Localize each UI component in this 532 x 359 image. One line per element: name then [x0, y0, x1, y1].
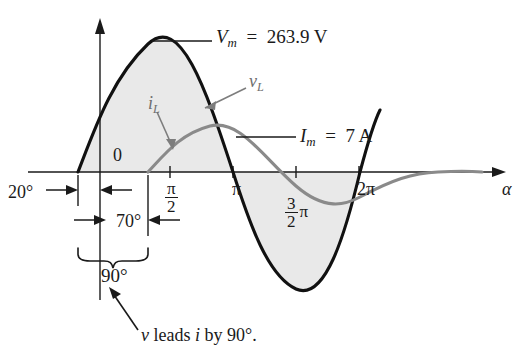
tick-label-3pi-over-2: 3 2 π — [285, 195, 308, 231]
dim-20deg — [46, 185, 78, 195]
3pi2-pi-symbol: π — [300, 202, 309, 221]
im-callout-label: Im = 7 A — [300, 126, 372, 149]
dimension-label-70deg: 70° — [116, 212, 141, 230]
tick-label-pi: π — [232, 180, 241, 198]
dimension-label-20deg: 20° — [8, 183, 33, 201]
im-value: 7 A — [345, 125, 372, 146]
vm-equals: = — [246, 26, 257, 47]
pi2-numerator: π — [165, 180, 178, 198]
tick-label-pi-over-2: π 2 — [165, 180, 178, 216]
dimension-label-90deg: 90° — [101, 266, 128, 285]
vm-value: 263.9 V — [267, 26, 328, 47]
x-axis-label: α — [502, 180, 511, 198]
im-subscript: m — [306, 134, 315, 149]
voltage-curve-label: vL — [249, 72, 264, 93]
vl-pointer-arrow — [205, 88, 246, 110]
vm-symbol: V — [216, 26, 228, 47]
current-curve-label: iL — [148, 94, 160, 115]
vl-subscript: L — [257, 80, 264, 94]
il-subscript: L — [153, 102, 160, 116]
3pi2-numerator: 3 — [285, 195, 298, 213]
vl-symbol: v — [249, 71, 257, 91]
3pi2-denominator: 2 — [285, 213, 298, 230]
caption-pointer-arrow — [109, 287, 138, 330]
origin-label: 0 — [113, 146, 122, 164]
vm-callout-label: Vm = 263.9 V — [216, 27, 328, 50]
figure-caption: v leads i by 90°. — [141, 326, 257, 344]
dim-20deg-inner-arrow — [100, 185, 132, 195]
vm-subscript: m — [228, 35, 237, 50]
plot-canvas — [0, 0, 532, 359]
waveform-figure: Vm = 263.9 V Im = 7 A vL iL 0 α π 2 π 3 … — [0, 0, 532, 359]
im-equals: = — [325, 125, 336, 146]
pi2-denominator: 2 — [165, 198, 178, 215]
tick-label-2pi: 2π — [357, 180, 375, 198]
